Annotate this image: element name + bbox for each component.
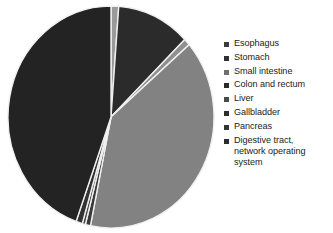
pie-svg [4,4,218,230]
pie-chart-figure: Esophagus Stomach Small intestine Colon … [0,0,333,233]
legend-item-digestive-tract[interactable]: Digestive tract, network operating syste… [224,135,332,169]
legend-swatch-icon [224,97,229,102]
legend-swatch-icon [224,139,229,144]
legend-swatch-icon [224,83,229,88]
legend-item-stomach[interactable]: Stomach [224,52,332,63]
pie-plot-area [4,4,218,230]
legend-item-label: Esophagus [234,38,279,49]
pie-slices-group [8,6,214,228]
legend-item-label: Stomach [234,52,270,63]
legend-item-small-intestine[interactable]: Small intestine [224,66,332,77]
legend-swatch-icon [224,42,229,47]
legend-item-label: Digestive tract, network operating syste… [234,135,305,169]
legend-item-esophagus[interactable]: Esophagus [224,38,332,49]
legend-item-label: Colon and rectum [234,79,305,90]
legend-swatch-icon [224,70,229,75]
legend-item-liver[interactable]: Liver [224,93,332,104]
legend-item-gallbladder[interactable]: Gallbladder [224,107,332,118]
legend-swatch-icon [224,56,229,61]
legend-item-colon-and-rectum[interactable]: Colon and rectum [224,79,332,90]
legend-item-label: Gallbladder [234,107,280,118]
legend-item-label: Small intestine [234,66,292,77]
legend-swatch-icon [224,125,229,130]
legend-item-label: Liver [234,93,253,104]
legend-swatch-icon [224,111,229,116]
legend-item-label: Pancreas [234,121,272,132]
chart-legend: Esophagus Stomach Small intestine Colon … [224,38,332,171]
legend-item-pancreas[interactable]: Pancreas [224,121,332,132]
